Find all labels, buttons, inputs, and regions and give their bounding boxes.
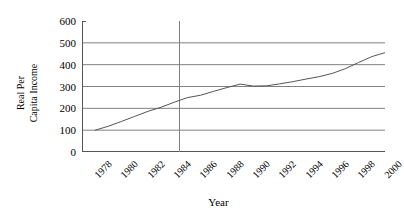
x-tick-label: 1982 bbox=[146, 159, 167, 180]
x-tick-label: 1994 bbox=[304, 159, 325, 180]
plot-svg bbox=[82, 21, 385, 152]
y-axis-tick-labels: 0100200300400500600 bbox=[40, 0, 80, 220]
y-tick-label: 300 bbox=[40, 81, 80, 92]
y-axis-title-line-2: Capita Income bbox=[27, 64, 40, 123]
y-tick-label: 400 bbox=[40, 59, 80, 70]
x-axis-title-text: Year bbox=[170, 196, 228, 208]
gridlines bbox=[82, 43, 385, 130]
plot-area bbox=[82, 21, 385, 152]
x-tick-label: 1992 bbox=[277, 159, 298, 180]
y-tick-label: 100 bbox=[40, 125, 80, 136]
x-tick-label: 1980 bbox=[119, 159, 140, 180]
x-tick-label: 1978 bbox=[93, 159, 114, 180]
x-tick-label: 1998 bbox=[356, 159, 377, 180]
x-tick-label: 1988 bbox=[225, 159, 246, 180]
y-tick-label: 500 bbox=[40, 37, 80, 48]
y-tick-label: 0 bbox=[40, 147, 80, 158]
y-tick-label: 200 bbox=[40, 103, 80, 114]
x-tick-label: 1986 bbox=[198, 159, 219, 180]
x-tick-label: 1984 bbox=[172, 159, 193, 180]
y-tick-label: 600 bbox=[40, 16, 80, 27]
x-tick-label: 1990 bbox=[251, 159, 272, 180]
y-axis-title-line-1: Real Per bbox=[15, 76, 26, 110]
x-tick-label: 2000 bbox=[383, 159, 404, 180]
x-tick-label: 1996 bbox=[330, 159, 351, 180]
x-axis-title: Year bbox=[0, 196, 399, 208]
